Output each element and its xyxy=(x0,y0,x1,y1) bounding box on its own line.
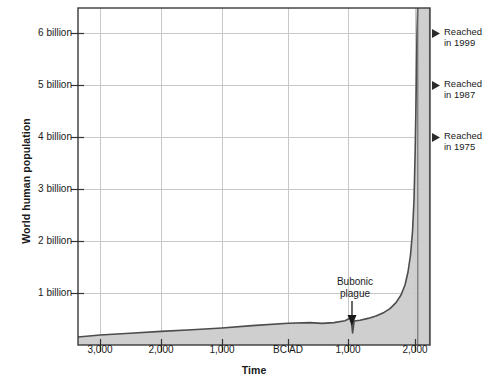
reached-1999-line1: Reached xyxy=(444,26,482,37)
x-tick-3000-bc: 3,000 xyxy=(65,344,135,355)
reached-markers xyxy=(432,29,440,142)
reached-1999-line2: in 1999 xyxy=(444,37,482,48)
bubonic-plague-label: Bubonic plague xyxy=(310,276,400,300)
y-tick-label: 1 billion xyxy=(4,288,72,298)
y-tick-6-billion: 6 billion xyxy=(0,28,72,38)
y-tick-label: 6 billion xyxy=(4,28,72,38)
y-tick-label: 4 billion xyxy=(4,132,72,142)
y-tick-label: 5 billion xyxy=(4,80,72,90)
plot-canvas xyxy=(0,0,484,386)
y-tick-1-billion: 1 billion xyxy=(0,288,72,298)
reached-1987-line1: Reached xyxy=(444,78,482,89)
reached-1987-line2: in 1987 xyxy=(444,89,482,100)
y-tick-label: 2 billion xyxy=(4,236,72,246)
x-tick-2000-ad: 2,000 xyxy=(380,344,450,355)
y-tick-4-billion: 4 billion xyxy=(0,132,72,142)
bubonic-plague-line1: Bubonic xyxy=(337,276,373,287)
reached-1987-marker xyxy=(432,81,440,90)
y-tick-2-billion: 2 billion xyxy=(0,236,72,246)
reached-1975-line1: Reached xyxy=(444,130,482,141)
population-chart: World human population xyxy=(0,0,484,386)
reached-1999-marker xyxy=(432,29,440,38)
reached-1975-marker xyxy=(432,133,440,142)
x-tick-1000-bc: 1,000 xyxy=(187,344,257,355)
y-tick-label: 3 billion xyxy=(4,184,72,194)
x-tick-1000-ad: 1,000 xyxy=(313,344,383,355)
reached-1975-line2: in 1975 xyxy=(444,141,482,152)
reached-1999-label: Reached in 1999 xyxy=(444,26,482,48)
x-axis-title: Time xyxy=(78,364,430,376)
y-tick-5-billion: 5 billion xyxy=(0,80,72,90)
x-tick-2000-bc: 2,000 xyxy=(126,344,196,355)
reached-1987-label: Reached in 1987 xyxy=(444,78,482,100)
y-tick-3-billion: 3 billion xyxy=(0,184,72,194)
bubonic-plague-line2: plague xyxy=(310,288,400,300)
reached-1975-label: Reached in 1975 xyxy=(444,130,482,152)
